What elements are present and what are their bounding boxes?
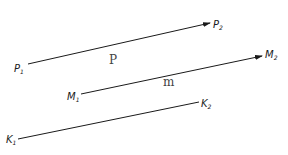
diagram-canvas: P1 P2 P M1 M2 m K1 K2	[0, 0, 288, 155]
point-k2-label: K2	[201, 98, 212, 110]
segment-k-line	[18, 102, 199, 139]
point-m2-label: M2	[265, 49, 278, 61]
point-p2-label: P2	[213, 19, 223, 31]
segment-p-label: P	[109, 53, 117, 67]
point-p1-label: P1	[14, 63, 24, 75]
point-k1-label: K1	[6, 134, 16, 146]
point-m1-label: M1	[67, 91, 79, 103]
segment-m-label: m	[163, 75, 175, 89]
segment-k: K1 K2	[6, 98, 212, 146]
segment-p-line	[28, 23, 210, 64]
segment-m: M1 M2 m	[67, 49, 278, 103]
segment-p: P1 P2 P	[14, 19, 223, 75]
